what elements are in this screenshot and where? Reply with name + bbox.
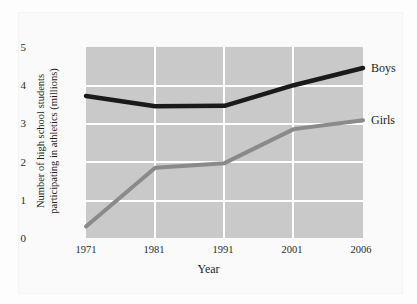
x-axis-tick-1991: 1991 (193, 244, 253, 255)
chart-figure: Number of high school students participa… (0, 0, 417, 304)
x-axis-tick-1981: 1981 (124, 244, 184, 255)
y-axis-tick-5: 5 (0, 42, 26, 53)
y-axis-tick-1: 1 (0, 195, 26, 206)
plot-area (86, 47, 363, 238)
y-axis-tick-3: 3 (0, 118, 26, 129)
x-axis-title: Year (0, 262, 417, 277)
y-axis-tick-0: 0 (0, 233, 26, 244)
y-axis-tick-2: 2 (0, 157, 26, 168)
series-label-boys: Boys (371, 62, 396, 74)
x-axis-tick-2001: 2001 (262, 244, 322, 255)
series-label-girls: Girls (371, 114, 395, 126)
y-axis-title: Number of high school students participa… (34, 43, 60, 239)
series-layer (86, 47, 363, 238)
y-axis-title-line-1: Number of high school students (34, 43, 47, 239)
y-axis-title-line-2: participating in athletics (millions) (47, 43, 60, 239)
series-line-boys (86, 68, 363, 106)
x-axis-tick-2006: 2006 (331, 244, 391, 255)
x-axis-tick-1971: 1971 (56, 244, 116, 255)
y-axis-tick-4: 4 (0, 80, 26, 91)
series-line-girls (86, 120, 363, 226)
